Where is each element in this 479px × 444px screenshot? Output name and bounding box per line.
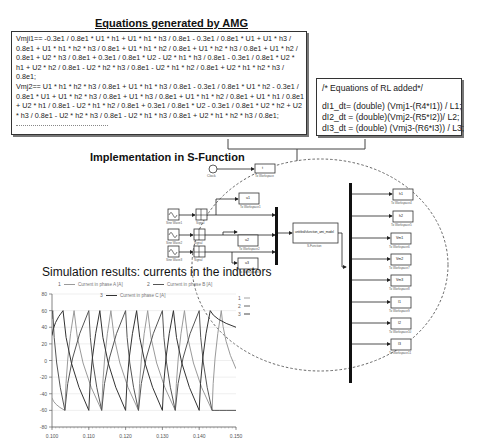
- tw-value: u1: [246, 196, 250, 200]
- out-label: To Workspace11: [389, 351, 411, 355]
- source-label: Sine Wave1: [166, 221, 182, 225]
- svg-text:Current in phase A [A]: Current in phase A [A]: [78, 282, 123, 287]
- out-label: To Workspace10: [389, 330, 411, 334]
- svg-text:-60: -60: [40, 407, 47, 413]
- svg-text:-80: -80: [40, 424, 47, 430]
- chart-svg: 806040200-20-40-60-800.1000.1100.1200.13…: [0, 280, 260, 444]
- svg-text:60: 60: [41, 308, 47, 314]
- svg-text:1: 1: [238, 295, 241, 301]
- out-value: Vm3: [396, 278, 403, 282]
- svg-text:Current in phase C [A]: Current in phase C [A]: [120, 293, 165, 298]
- out-value: I1: [398, 300, 401, 304]
- out-label: To Workspace8: [389, 287, 410, 291]
- results-title: Simulation results: currents in the indu…: [42, 265, 271, 279]
- svg-text:0.110: 0.110: [83, 433, 95, 439]
- out-value: Vm2: [396, 257, 403, 261]
- clock-icon: [209, 165, 217, 173]
- tw-label: To Workspace: [255, 174, 274, 178]
- out-label: To Workspace7: [389, 266, 410, 270]
- tw-value: t: [262, 166, 263, 170]
- svg-text:-40: -40: [40, 391, 47, 397]
- svg-text:3: 3: [238, 311, 241, 317]
- tw-value: u2: [245, 238, 249, 242]
- svg-text:0.150: 0.150: [230, 433, 243, 439]
- out-label: To Workspace6: [389, 245, 410, 249]
- relay-label: Signal: [196, 221, 204, 225]
- svg-text:-20: -20: [40, 374, 47, 380]
- clock-label: Clock: [207, 174, 216, 178]
- svg-text:0.130: 0.130: [156, 433, 169, 439]
- svg-text:2: 2: [238, 303, 241, 309]
- out-label: To Workspace4: [391, 201, 412, 205]
- svg-text:Current in phase B [A]: Current in phase B [A]: [167, 282, 212, 287]
- out-value: h2: [399, 214, 403, 218]
- tw-label: To Workspace2: [239, 247, 260, 251]
- svg-text:80: 80: [41, 291, 47, 297]
- svg-text:2: 2: [147, 281, 150, 287]
- svg-text:0.140: 0.140: [193, 433, 206, 439]
- svg-text:3: 3: [100, 292, 103, 298]
- out-value: I2: [398, 321, 401, 325]
- source-label: Sine Wave3: [166, 258, 182, 262]
- svg-text:20: 20: [41, 341, 47, 347]
- sfunction-block-name: untitled/sfunction_ami_model: [295, 230, 334, 234]
- out-label: To Workspace5: [391, 223, 412, 227]
- bracket-connector: [228, 139, 365, 149]
- svg-text:1: 1: [58, 281, 61, 287]
- current-chart: 806040200-20-40-60-800.1000.1100.1200.13…: [0, 280, 260, 444]
- svg-text:0.100: 0.100: [46, 433, 59, 439]
- out-value: I3: [398, 342, 401, 346]
- sfunction-block-label: S-Function: [307, 244, 322, 248]
- out-value: h1: [399, 192, 403, 196]
- relay-label: Signal: [194, 258, 202, 262]
- svg-text:40: 40: [41, 324, 47, 330]
- svg-text:0: 0: [44, 358, 47, 364]
- out-value: Vm1: [396, 236, 403, 240]
- svg-text:0.120: 0.120: [119, 433, 132, 439]
- out-label: To Workspace9: [389, 309, 410, 313]
- tw-label: To Workspace1: [240, 205, 261, 209]
- source-label: Sine Wave2: [166, 241, 182, 245]
- relay-label: Signal: [194, 241, 202, 245]
